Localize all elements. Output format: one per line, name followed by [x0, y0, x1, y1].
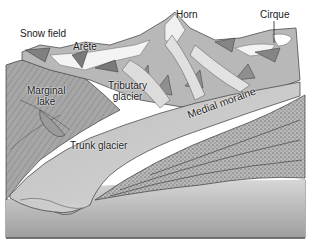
label-horn: Horn: [176, 9, 198, 20]
cirque-pointer-line: [272, 21, 276, 43]
label-snow-field: Snow field: [20, 28, 66, 39]
label-cirque: Cirque: [260, 9, 289, 20]
label-tributary-glacier: Tributary glacier: [108, 80, 147, 102]
label-marginal-lake: Marginal lake: [27, 85, 65, 107]
glacier-diagram: Snow field Arête Horn Cirque Marginal la…: [0, 0, 309, 239]
label-arete: Arête: [73, 41, 97, 52]
label-trunk-glacier: Trunk glacier: [70, 140, 127, 151]
